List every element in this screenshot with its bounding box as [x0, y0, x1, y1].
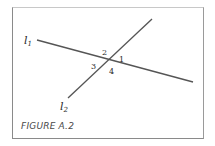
angle-label-4: 4: [109, 67, 114, 76]
angle-label-1: 1: [119, 55, 124, 64]
figure-caption: FIGURE A.2: [21, 121, 74, 131]
line-l1: [37, 40, 193, 82]
line-l2: [68, 19, 152, 98]
label-l1: l1: [24, 34, 32, 48]
angle-label-2: 2: [102, 48, 107, 57]
angle-label-3: 3: [91, 62, 96, 71]
label-l2: l2: [60, 100, 69, 114]
